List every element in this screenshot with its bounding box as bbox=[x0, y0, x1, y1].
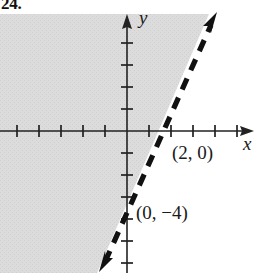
coordinate-plane bbox=[0, 0, 255, 273]
inequality-graph-figure: 24. bbox=[0, 0, 255, 273]
y-axis-label: y bbox=[139, 8, 147, 27]
x-axis-label: x bbox=[243, 134, 251, 153]
x-intercept-label: (2, 0) bbox=[172, 143, 213, 162]
y-intercept-label: (0, −4) bbox=[136, 203, 188, 222]
